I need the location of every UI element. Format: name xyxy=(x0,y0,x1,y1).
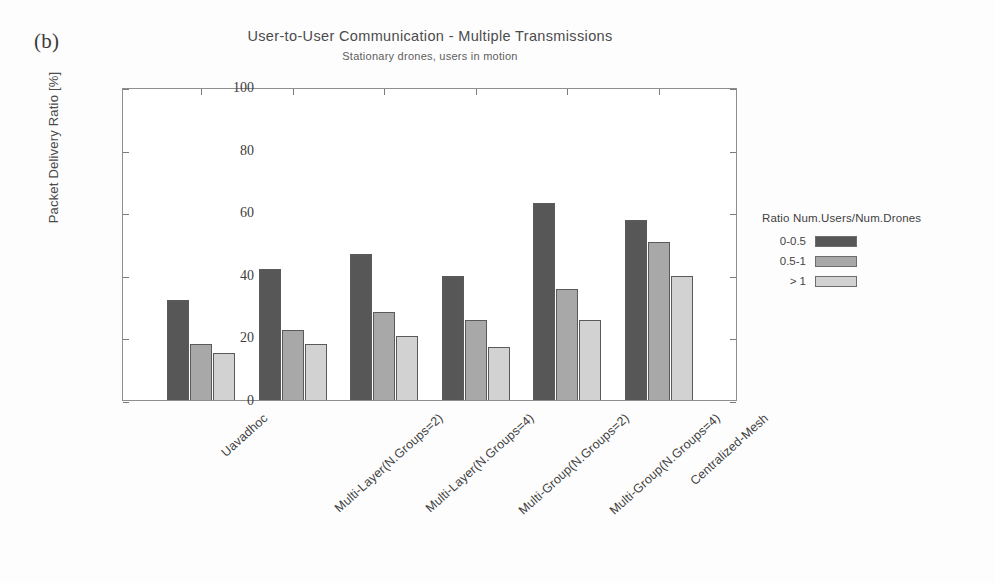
bar xyxy=(373,312,395,400)
y-tick-label: 100 xyxy=(194,80,254,96)
legend-swatch xyxy=(815,256,857,267)
bar xyxy=(259,269,281,400)
legend: Ratio Num.Users/Num.Drones 0-0.50.5-1> 1 xyxy=(762,212,921,291)
legend-item: 0.5-1 xyxy=(762,251,921,271)
bar xyxy=(671,276,693,400)
bar xyxy=(282,330,304,400)
bar xyxy=(305,344,327,400)
plot-area xyxy=(122,88,737,401)
x-tick-mark xyxy=(476,89,477,95)
y-tick-mark xyxy=(123,339,129,340)
figure-chart: (b) User-to-User Communication - Multipl… xyxy=(0,0,995,583)
y-tick-label: 80 xyxy=(194,143,254,159)
y-tick-mark xyxy=(730,152,736,153)
y-tick-label: 20 xyxy=(194,330,254,346)
legend-item-label: > 1 xyxy=(762,275,806,287)
bar xyxy=(167,300,189,400)
x-tick-mark xyxy=(384,89,385,95)
y-tick-mark xyxy=(123,214,129,215)
legend-item-label: 0-0.5 xyxy=(762,235,806,247)
chart-subtitle: Stationary drones, users in motion xyxy=(122,50,738,62)
y-tick-mark xyxy=(730,214,736,215)
legend-item: > 1 xyxy=(762,271,921,291)
x-tick-label: Multi-Layer(N.Groups=4) xyxy=(423,411,537,515)
x-tick-mark xyxy=(659,89,660,95)
bar xyxy=(350,254,372,400)
y-tick-mark xyxy=(123,152,129,153)
x-tick-mark xyxy=(293,89,294,95)
y-tick-mark xyxy=(730,339,736,340)
bar xyxy=(465,320,487,400)
legend-item-label: 0.5-1 xyxy=(762,255,806,267)
y-tick-label: 40 xyxy=(194,268,254,284)
chart-title: User-to-User Communication - Multiple Tr… xyxy=(122,28,738,44)
bar xyxy=(488,347,510,400)
legend-swatch xyxy=(815,236,857,247)
legend-rows: 0-0.50.5-1> 1 xyxy=(762,231,921,291)
legend-swatch xyxy=(815,276,857,287)
y-tick-mark xyxy=(730,402,736,403)
y-tick-label: 0 xyxy=(194,393,254,409)
legend-item: 0-0.5 xyxy=(762,231,921,251)
bar xyxy=(190,344,212,400)
y-tick-mark xyxy=(123,402,129,403)
legend-title: Ratio Num.Users/Num.Drones xyxy=(762,212,921,224)
y-tick-mark xyxy=(123,89,129,90)
bar xyxy=(533,203,555,400)
bar xyxy=(579,320,601,400)
bar xyxy=(442,276,464,400)
y-tick-mark xyxy=(730,89,736,90)
bar xyxy=(396,336,418,400)
y-tick-label: 60 xyxy=(194,205,254,221)
x-tick-mark xyxy=(567,89,568,95)
x-tick-label: Uavadhoc xyxy=(219,411,271,460)
bar xyxy=(648,242,670,400)
bar xyxy=(625,220,647,400)
y-tick-mark xyxy=(730,277,736,278)
y-tick-mark xyxy=(123,277,129,278)
bar xyxy=(556,289,578,400)
y-axis-title: Packet Delivery Ratio [%] xyxy=(46,18,61,278)
